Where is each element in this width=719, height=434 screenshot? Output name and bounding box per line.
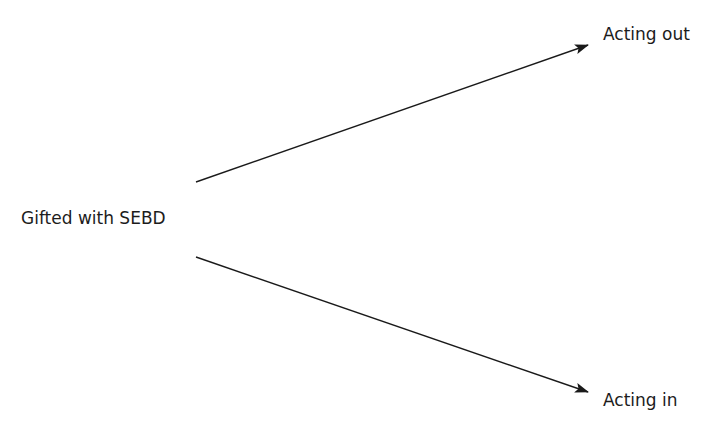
edge-to-acting-in [196,257,588,392]
source-node-label: Gifted with SEBD [21,208,166,228]
target-node-acting-in: Acting in [603,390,678,410]
target-node-acting-out: Acting out [603,24,690,44]
edge-to-acting-out [196,45,588,182]
